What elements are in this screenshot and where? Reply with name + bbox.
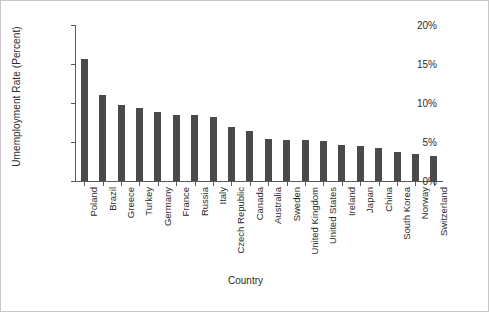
x-tick-label: South Korea — [401, 187, 412, 240]
x-tick-mark — [213, 182, 214, 186]
x-tick-label: Ireland — [346, 187, 357, 216]
x-tick-mark — [342, 182, 343, 186]
x-tick-mark — [360, 182, 361, 186]
x-tick-mark — [176, 182, 177, 186]
x-axis-title: Country — [1, 275, 489, 286]
x-tick-label: Turkey — [143, 187, 154, 216]
x-tick-mark — [379, 182, 380, 186]
y-axis-title: Umemployment Rate (Percent) — [1, 1, 31, 191]
x-tick-mark — [139, 182, 140, 186]
bar — [320, 141, 327, 181]
bar — [81, 59, 88, 181]
bar — [338, 145, 345, 181]
bar — [191, 115, 198, 181]
x-tick-mark — [323, 182, 324, 186]
x-tick-label: Germany — [162, 187, 173, 226]
x-tick-mark — [287, 182, 288, 186]
y-tick-label: 15% — [403, 59, 437, 70]
y-tick-mark — [71, 142, 75, 143]
x-tick-label: Japan — [364, 187, 375, 213]
bar — [154, 112, 161, 181]
x-tick-label: United Kingdom — [309, 187, 320, 255]
bar — [118, 105, 125, 181]
x-axis-line — [75, 181, 443, 182]
bar — [430, 156, 437, 181]
x-tick-label: Italy — [217, 187, 228, 204]
x-tick-mark — [231, 182, 232, 186]
y-axis-title-text: Umemployment Rate (Percent) — [11, 26, 22, 167]
y-tick-mark — [71, 103, 75, 104]
x-tick-mark — [158, 182, 159, 186]
chart-screenshot: Umemployment Rate (Percent) 0%5%10%15%20… — [0, 0, 489, 312]
x-tick-label: Sweden — [291, 187, 302, 221]
bar — [357, 146, 364, 181]
y-tick-mark — [71, 25, 75, 26]
x-tick-mark — [195, 182, 196, 186]
bar — [394, 152, 401, 181]
plot-area: 0%5%10%15%20% — [75, 25, 443, 181]
x-tick-mark — [434, 182, 435, 186]
bar — [412, 154, 419, 181]
bar — [375, 148, 382, 181]
bar — [265, 139, 272, 181]
x-tick-label: Switzerland — [438, 187, 449, 236]
x-tick-label: Norway — [419, 187, 430, 219]
y-tick-mark — [71, 181, 75, 182]
bar — [246, 131, 253, 181]
x-tick-mark — [121, 182, 122, 186]
x-tick-label: Brazil — [107, 187, 118, 211]
x-tick-mark — [305, 182, 306, 186]
x-tick-mark — [268, 182, 269, 186]
x-tick-mark — [415, 182, 416, 186]
bar — [99, 95, 106, 181]
bar — [228, 127, 235, 181]
x-tick-mark — [103, 182, 104, 186]
bar — [283, 140, 290, 181]
x-tick-mark — [84, 182, 85, 186]
x-tick-label: Russia — [199, 187, 210, 216]
y-tick-label: 10% — [403, 98, 437, 109]
x-tick-mark — [250, 182, 251, 186]
x-tick-label: Poland — [88, 187, 99, 217]
bar — [173, 115, 180, 181]
x-tick-label: Australia — [272, 187, 283, 224]
bar — [210, 117, 217, 181]
x-tick-label: Czech Republic — [235, 187, 246, 254]
x-axis-title-text: Country — [228, 275, 263, 286]
x-tick-label: Canada — [254, 187, 265, 220]
x-tick-label: Greece — [125, 187, 136, 218]
x-tick-label: United States — [327, 187, 338, 244]
bar — [136, 108, 143, 181]
x-tick-label: France — [180, 187, 191, 217]
y-tick-label: 5% — [403, 137, 437, 148]
x-tick-label: China — [383, 187, 394, 212]
y-tick-mark — [71, 64, 75, 65]
bar — [302, 140, 309, 181]
y-axis-line — [75, 25, 76, 182]
y-tick-label: 20% — [403, 20, 437, 31]
x-tick-mark — [397, 182, 398, 186]
